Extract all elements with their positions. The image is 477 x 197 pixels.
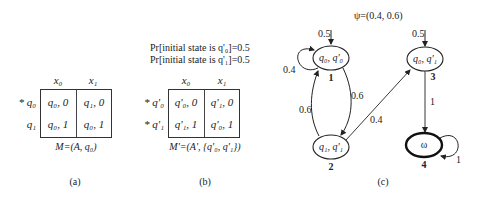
edge-2-to-3: 0.4 bbox=[346, 70, 410, 140]
node-number: 1 bbox=[329, 72, 334, 83]
edge-label: 0.5 bbox=[318, 28, 331, 39]
node-number: 4 bbox=[422, 159, 427, 170]
self-loop-4: 1 bbox=[440, 136, 461, 165]
node-label: q₁, q'₁ bbox=[319, 141, 343, 152]
node-label: ω bbox=[421, 139, 428, 150]
start-edge-1: 0.5 bbox=[318, 28, 331, 44]
node-number: 3 bbox=[431, 71, 436, 82]
edge-label: 0.4 bbox=[370, 114, 383, 125]
edge-label: 0.6 bbox=[299, 104, 312, 115]
self-loop-1: 0.4 bbox=[283, 49, 318, 75]
edge-label: 0.4 bbox=[283, 64, 296, 75]
edge-label: 0.5 bbox=[412, 28, 425, 39]
state-node-4-omega: ω 4 bbox=[406, 133, 442, 170]
node-label: q₀, q'₀ bbox=[319, 52, 344, 63]
caption-c: (c) bbox=[368, 176, 398, 187]
markov-chain-graph: 0.5 0.5 0.4 0.6 0.6 0.4 1 bbox=[0, 0, 477, 197]
edge-label: 1 bbox=[456, 154, 461, 165]
edge-label: 0.6 bbox=[351, 90, 364, 101]
start-edge-3: 0.5 bbox=[412, 28, 425, 46]
edge-2-to-1: 0.6 bbox=[299, 71, 319, 136]
state-node-1: q₀, q'₀ 1 bbox=[313, 46, 349, 83]
edge-label: 1 bbox=[430, 96, 435, 107]
node-number: 2 bbox=[329, 161, 334, 172]
node-label: q₀, q'₁ bbox=[413, 53, 437, 64]
state-node-2: q₁, q'₁ 2 bbox=[313, 135, 349, 172]
